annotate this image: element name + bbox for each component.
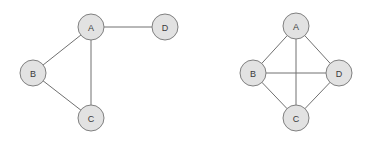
graph-node-A[interactable]: A — [78, 14, 104, 40]
edge-group-right-graph — [262, 36, 330, 109]
diagram-canvas: ABCDABCD — [0, 0, 377, 149]
node-label-B: B — [30, 69, 36, 79]
graph-edge-A-B[interactable] — [262, 36, 287, 64]
node-label-D: D — [162, 23, 169, 33]
graph-edge-A-D[interactable] — [305, 36, 330, 64]
graph-node-C[interactable]: C — [78, 105, 104, 131]
graph-edge-B-C[interactable] — [262, 82, 287, 108]
node-group-left-graph: ABCD — [20, 14, 178, 131]
graph-node-D[interactable]: D — [152, 14, 178, 40]
graph-node-D[interactable]: D — [326, 60, 352, 86]
graph-node-B[interactable]: B — [240, 60, 266, 86]
nodes-layer: ABCDABCD — [20, 13, 352, 131]
node-label-A: A — [293, 22, 299, 32]
graph-node-C[interactable]: C — [283, 105, 309, 131]
graph-node-A[interactable]: A — [283, 13, 309, 39]
node-label-D: D — [336, 69, 343, 79]
graph-edge-C-D[interactable] — [305, 82, 330, 108]
node-label-C: C — [293, 114, 300, 124]
node-label-A: A — [88, 23, 94, 33]
graph-edge-A-B[interactable] — [43, 35, 81, 65]
node-label-C: C — [88, 114, 95, 124]
graph-edge-B-C[interactable] — [43, 81, 80, 110]
edge-group-left-graph — [43, 27, 152, 110]
graph-svg: ABCDABCD — [0, 0, 377, 149]
graph-node-B[interactable]: B — [20, 60, 46, 86]
node-label-B: B — [250, 69, 256, 79]
